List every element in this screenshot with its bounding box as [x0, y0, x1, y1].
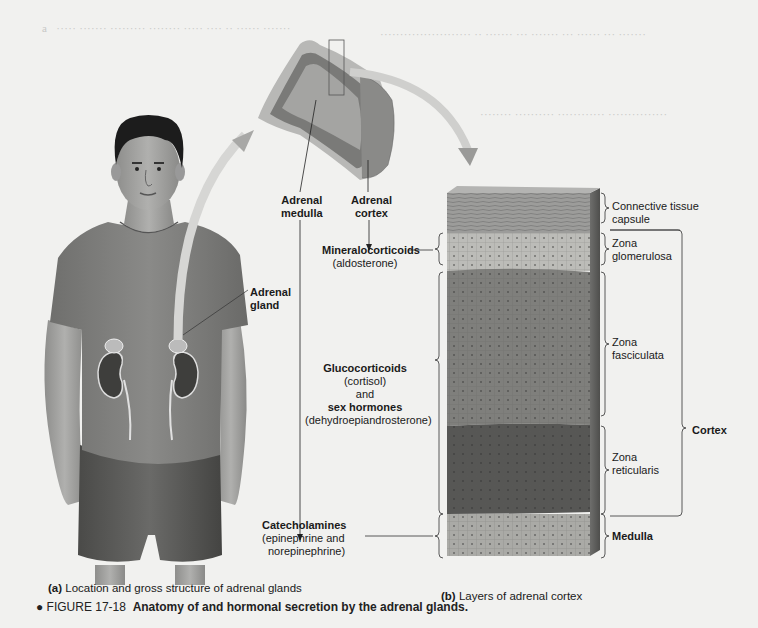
label-line: gland — [250, 299, 291, 312]
hormone-example: norepinephrine) — [262, 545, 346, 558]
figure-title: Anatomy of and hormonal secretion by the… — [133, 600, 468, 614]
layer-reticularis: Zona reticularis — [612, 451, 659, 477]
hormone-name: Mineralocorticoids — [322, 244, 408, 257]
hormone-name: sex hormones — [305, 401, 425, 414]
label-adrenal-medulla: Adrenal medulla — [281, 194, 323, 220]
layer-label: Zona — [612, 336, 664, 349]
human-figure — [44, 115, 248, 585]
tissue-block — [447, 186, 600, 556]
bullet-icon: ● — [36, 600, 43, 614]
panel-caption: Layers of adrenal cortex — [459, 590, 582, 602]
layer-capsule: Connective tissue capsule — [612, 200, 699, 226]
label-line: medulla — [281, 207, 323, 220]
caption-a: (a) Location and gross structure of adre… — [48, 582, 302, 594]
figure-caption: ● FIGURE 17-18 Anatomy of and hormonal s… — [36, 600, 468, 614]
glucocorticoids-label: Glucocorticoids (cortisol) and sex hormo… — [305, 362, 425, 427]
layer-label: Medulla — [612, 530, 653, 543]
label-line: cortex — [351, 207, 392, 220]
figure-number: FIGURE 17-18 — [47, 600, 126, 614]
layer-fasciculata: Zona fasciculata — [612, 336, 664, 362]
hormone-example: (aldosterone) — [322, 257, 408, 270]
layer-label: Zona — [612, 451, 659, 464]
layer-glomerulosa: Zona glomerulosa — [612, 237, 672, 263]
conjunction: and — [305, 388, 425, 401]
layer-label: capsule — [612, 213, 699, 226]
label-adrenal-cortex: Adrenal cortex — [351, 194, 392, 220]
panel-letter: (a) — [48, 582, 62, 594]
layer-label: Zona — [612, 237, 672, 250]
layer-label: reticularis — [612, 464, 659, 477]
layer-label: glomerulosa — [612, 250, 672, 263]
catecholamines-label: Catecholamines (epinephrine and norepine… — [262, 519, 346, 558]
layer-label: fasciculata — [612, 349, 664, 362]
layer-label: Connective tissue — [612, 200, 699, 213]
mineralocorticoids-label: Mineralocorticoids (aldosterone) — [322, 244, 408, 270]
label-adrenal-gland: Adrenal gland — [250, 286, 291, 312]
label-line: Adrenal — [250, 286, 291, 299]
hormone-example: (cortisol) — [305, 375, 425, 388]
panel-caption: Location and gross structure of adrenal … — [65, 582, 302, 594]
hormone-name: Catecholamines — [262, 519, 346, 532]
label-line: Adrenal — [281, 194, 323, 207]
layer-medulla: Medulla — [612, 530, 653, 543]
hormone-example: (epinephrine and — [262, 532, 346, 545]
label-line: Adrenal — [351, 194, 392, 207]
adrenal-gland-section — [258, 40, 394, 180]
hormone-example: (dehydroepiandrosterone) — [305, 414, 425, 427]
hormone-name: Glucocorticoids — [305, 362, 425, 375]
cortex-group-label: Cortex — [692, 424, 727, 437]
